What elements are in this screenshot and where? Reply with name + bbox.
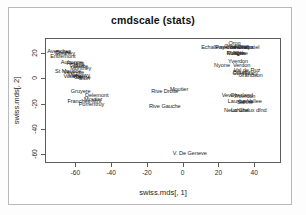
x-tick-mark bbox=[254, 163, 255, 167]
scatter-point-label: Conthey bbox=[54, 50, 75, 56]
x-tick-label: -40 bbox=[106, 169, 116, 176]
scatter-point-label: Grandson bbox=[239, 72, 263, 78]
y-tick-label: -20 bbox=[31, 99, 38, 109]
scatter-point-label: Monthey bbox=[70, 65, 91, 71]
x-tick-label: 20 bbox=[215, 169, 222, 176]
scatter-point-label: Sarine bbox=[237, 99, 253, 105]
scatter-point-label: La Chaux dfnd bbox=[231, 107, 267, 113]
plot-title: cmdscale (stats) bbox=[0, 14, 306, 26]
scatter-point-label: Nyone bbox=[214, 62, 230, 68]
scatter-point-label: Rive Gauche bbox=[149, 103, 181, 109]
y-tick-mark bbox=[41, 104, 45, 105]
x-tick-mark bbox=[111, 163, 112, 167]
x-tick-mark bbox=[218, 163, 219, 167]
x-axis-label: swiss.mds[, 1] bbox=[45, 188, 281, 197]
x-tick-label: 0 bbox=[181, 169, 185, 176]
scatter-point-label: Porrentruy bbox=[79, 101, 105, 107]
scatter-point-label: Neuchatel bbox=[235, 44, 260, 50]
x-tick-label: -20 bbox=[142, 169, 152, 176]
y-tick-label: -40 bbox=[31, 124, 38, 134]
y-tick-mark bbox=[41, 154, 45, 155]
figure-screenshot: cmdscale (stats) AvenchesBroyeEntremontC… bbox=[0, 0, 306, 215]
y-tick-mark bbox=[41, 53, 45, 54]
y-axis-label: swiss.mds[, 2] bbox=[12, 38, 24, 163]
x-tick-mark bbox=[75, 163, 76, 167]
x-tick-label: -60 bbox=[71, 169, 81, 176]
scatter-point-label: Orbe bbox=[236, 50, 248, 56]
scatter-data-layer: AvenchesBroyeEntremontContheyAubonneHere… bbox=[45, 38, 281, 163]
x-tick-label: 40 bbox=[251, 169, 258, 176]
scatter-point-label: Moutier bbox=[170, 86, 188, 92]
y-tick-label: 20 bbox=[31, 49, 38, 56]
y-tick-label: -60 bbox=[31, 149, 38, 159]
scatter-point-label: Sarine bbox=[75, 74, 91, 80]
y-tick-mark bbox=[41, 129, 45, 130]
x-tick-mark bbox=[147, 163, 148, 167]
x-tick-mark bbox=[183, 163, 184, 167]
scatter-point-label: V. De Geneve bbox=[173, 150, 207, 156]
y-tick-mark bbox=[41, 78, 45, 79]
y-tick-label: 0 bbox=[31, 77, 38, 81]
